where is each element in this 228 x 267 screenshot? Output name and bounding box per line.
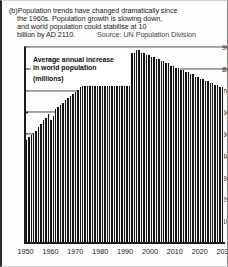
x-tick-label-2010: 2010 <box>167 247 183 256</box>
x-tick-label-1990: 1990 <box>117 247 133 256</box>
caption-source: Source: UN Population Division <box>75 30 196 39</box>
figure-caption: (b)Population trends have changed dramat… <box>9 7 223 39</box>
x-tick-label-2030: 2030 <box>217 247 228 256</box>
x-tick-label-2000: 2000 <box>142 247 158 256</box>
bar <box>222 87 224 242</box>
x-tick-label-1980: 1980 <box>92 247 108 256</box>
x-tick-label-1960: 1960 <box>42 247 58 256</box>
series-label-line-3: (millions) <box>33 75 128 83</box>
chart-figure: (b)Population trends have changed dramat… <box>0 0 228 267</box>
x-tick-label-1970: 1970 <box>67 247 83 256</box>
caption-line-4-text: billion by AD 2110. <box>17 30 75 39</box>
x-tick-label-2020: 2020 <box>192 247 208 256</box>
series-label-line-2: in world population <box>33 64 128 72</box>
series-label-box: Average annual increase in world populat… <box>31 54 130 86</box>
caption-line-4: billion by AD 2110.Source: UN Population… <box>9 31 223 39</box>
x-tick-label-1950: 1950 <box>18 247 34 256</box>
x-axis-line <box>24 242 225 244</box>
plot-area: 102030405060708090 195019601970198019902… <box>2 45 228 267</box>
series-label-line-1: Average annual increase <box>33 56 128 64</box>
